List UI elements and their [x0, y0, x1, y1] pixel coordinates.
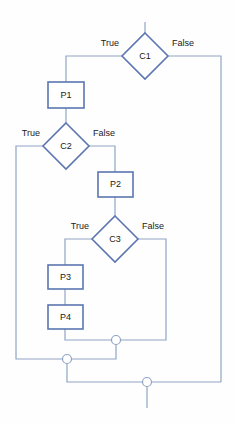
connector-c2-false-to-p2	[89, 146, 115, 172]
connector-p4-to-junction1	[65, 329, 116, 340]
node-label-c3: C3	[109, 234, 121, 244]
junction-dot-j3	[143, 378, 152, 387]
edge-label-c3-true: True	[71, 221, 89, 231]
edge-label-c1-true: True	[101, 38, 119, 48]
connector-c3-true-to-p3	[65, 239, 92, 265]
node-label-p2: P2	[110, 179, 121, 189]
connector-junction1-to-junction2	[67, 340, 116, 359]
shapes-layer	[43, 33, 168, 329]
junctions-layer	[63, 336, 152, 387]
node-label-p3: P3	[60, 272, 71, 282]
connector-c1-true-to-p1	[66, 56, 122, 82]
flowchart-canvas: C1P1C2P2C3P3P4TrueFalseTrueFalseTrueFals…	[0, 0, 235, 423]
node-label-p1: P1	[60, 90, 71, 100]
node-label-p4: P4	[60, 312, 71, 322]
connector-c1-false-to-right-rail	[168, 56, 221, 382]
junction-dot-j1	[112, 336, 121, 345]
edge-label-c2-false: False	[93, 128, 115, 138]
edge-label-c3-false: False	[142, 221, 164, 231]
edge-label-c1-false: False	[172, 38, 194, 48]
connectors-layer	[16, 22, 221, 408]
node-label-c1: C1	[139, 51, 151, 61]
flowchart-diagram: C1P1C2P2C3P3P4TrueFalseTrueFalseTrueFals…	[0, 0, 235, 423]
edge-label-c2-true: True	[22, 128, 40, 138]
node-label-c2: C2	[60, 141, 72, 151]
junction-dot-j2	[63, 355, 72, 364]
